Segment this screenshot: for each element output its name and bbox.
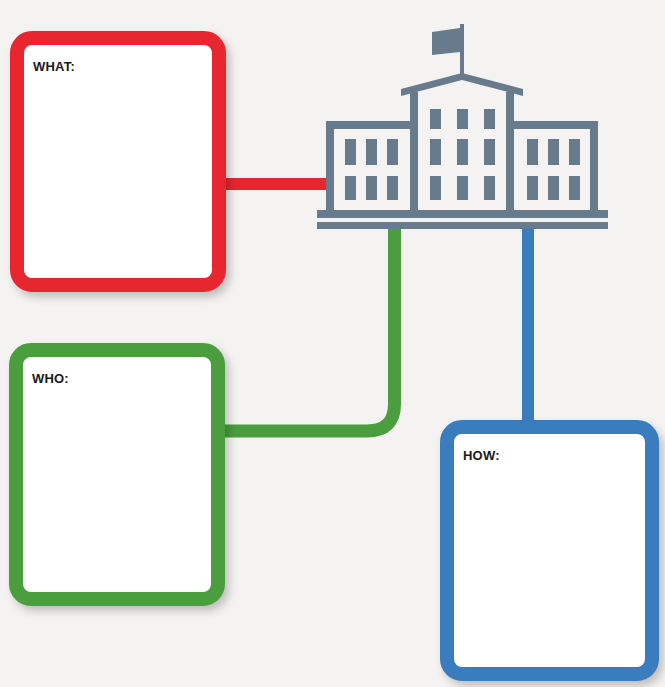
who-connector [220, 228, 395, 431]
school-building-icon [317, 24, 608, 229]
who-box[interactable]: WHO: [9, 343, 225, 606]
who-label: WHO: [32, 371, 69, 386]
what-label: WHAT: [33, 59, 75, 74]
what-connector [222, 178, 328, 190]
how-connector [522, 228, 534, 424]
how-label: HOW: [463, 448, 500, 463]
what-box[interactable]: WHAT: [10, 31, 226, 292]
how-box[interactable]: HOW: [440, 420, 659, 681]
